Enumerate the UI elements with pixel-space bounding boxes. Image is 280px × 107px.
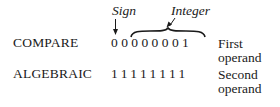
bit-string: 11111111 (111, 66, 189, 82)
operand-label: First operand (218, 37, 261, 65)
operand-label-line2: operand (218, 82, 261, 96)
bit-string: 00000001 (111, 35, 192, 51)
operand-label-line1: First (218, 37, 261, 51)
operand-label-line2: operand (218, 51, 261, 65)
instruction-label: ALGEBRAIC (13, 66, 92, 82)
operand-label-line1: Second (218, 68, 261, 82)
operand-label: Second operand (218, 68, 261, 96)
instruction-label: COMPARE (13, 35, 78, 51)
